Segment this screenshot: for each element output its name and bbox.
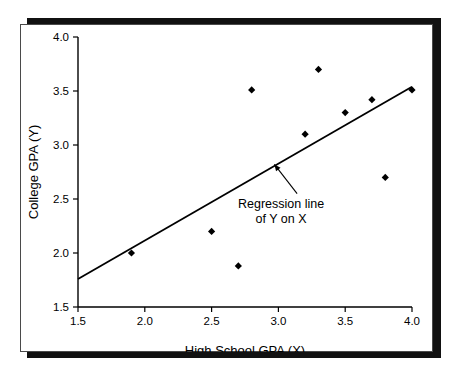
x-tick-label: 3.5 xyxy=(337,315,353,327)
figure-root: 1.52.02.53.03.54.01.52.02.53.03.54.0High… xyxy=(0,0,451,373)
data-point-marker xyxy=(382,174,389,181)
x-tick-label: 1.5 xyxy=(70,315,86,327)
data-point-marker xyxy=(368,96,375,103)
y-tick-label: 1.5 xyxy=(53,301,69,313)
x-tick-label: 4.0 xyxy=(404,315,420,327)
y-tick-label: 3.0 xyxy=(53,139,69,151)
false xyxy=(274,164,280,171)
y-tick-label: 4.0 xyxy=(53,31,69,43)
x-tick-label: 3.0 xyxy=(270,315,286,327)
y-tick-label: 2.5 xyxy=(53,193,69,205)
x-tick-label: 2.0 xyxy=(137,315,153,327)
data-point-marker xyxy=(248,86,255,93)
x-tick-label: 2.5 xyxy=(204,315,220,327)
data-point-marker xyxy=(342,109,349,116)
callout-text-line-1: Regression line xyxy=(238,197,324,211)
y-tick-label: 3.5 xyxy=(53,85,69,97)
scatter-plot: 1.52.02.53.03.54.01.52.02.53.03.54.0High… xyxy=(20,24,433,352)
data-point-marker xyxy=(302,131,309,138)
data-point-marker xyxy=(208,228,215,235)
y-tick-label: 2.0 xyxy=(53,247,69,259)
data-point-marker xyxy=(235,262,242,269)
regression-line xyxy=(78,87,412,279)
data-point-marker xyxy=(315,66,322,73)
y-axis-title: College GPA (Y) xyxy=(26,125,41,219)
callout-text-line-2: of Y on X xyxy=(256,212,308,226)
x-axis-title: High School GPA (X) xyxy=(185,343,305,352)
